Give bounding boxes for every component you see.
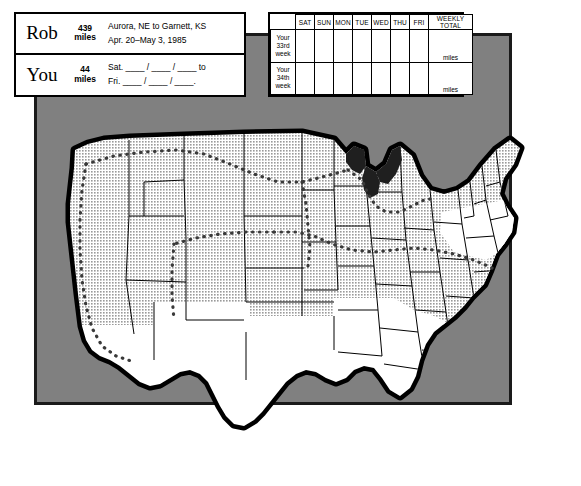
route-endpoints: Aurora, NE to Garnett, KS bbox=[108, 19, 244, 33]
col-header-thu: THU bbox=[391, 15, 410, 30]
cell-w34-total[interactable]: miles bbox=[429, 62, 473, 95]
cell-w33-fri[interactable] bbox=[410, 30, 429, 63]
cell-w34-tue[interactable] bbox=[353, 62, 372, 95]
row-label-line-2: 33rd bbox=[271, 42, 295, 50]
cell-w33-sat[interactable] bbox=[296, 30, 315, 63]
cell-w34-sat[interactable] bbox=[296, 62, 315, 95]
total-unit-w34: miles bbox=[429, 86, 472, 93]
cell-w34-wed[interactable] bbox=[372, 62, 391, 95]
total-unit-w33: miles bbox=[429, 54, 472, 61]
table-row: Your 34th week miles bbox=[271, 62, 473, 95]
info-row-rob: Rob 439 miles Aurora, NE to Garnett, KS … bbox=[16, 14, 244, 55]
shaded-states bbox=[64, 130, 524, 450]
distance-unit-rob: miles bbox=[74, 33, 96, 42]
route-detail-rob: Aurora, NE to Garnett, KS Apr. 20–May 3,… bbox=[104, 14, 244, 53]
col-header-fri: FRI bbox=[410, 15, 429, 30]
table-header-row: SAT SUN MON TUE WED THU FRI WEEKLY TOTAL bbox=[271, 15, 473, 30]
date-entry-you[interactable]: Sat. ____ / ____ / ____ to Fri. ____ / _… bbox=[104, 55, 244, 96]
col-header-weekly-total: WEEKLY TOTAL bbox=[429, 15, 473, 30]
row-label-line-1: Your bbox=[271, 66, 295, 74]
row-label-line-3: week bbox=[271, 82, 295, 90]
distance-unit-you: miles bbox=[74, 75, 96, 84]
corner-cell bbox=[271, 15, 296, 30]
row-label-line-1: Your bbox=[271, 34, 295, 42]
cell-w33-thu[interactable] bbox=[391, 30, 410, 63]
cell-w34-fri[interactable] bbox=[410, 62, 429, 95]
table-row: Your 33rd week miles bbox=[271, 30, 473, 63]
weekly-log-table[interactable]: SAT SUN MON TUE WED THU FRI WEEKLY TOTAL… bbox=[268, 12, 464, 97]
cell-w34-sun[interactable] bbox=[315, 62, 334, 95]
rider-distance-you: 44 miles bbox=[66, 55, 104, 96]
row-label-week-33: Your 33rd week bbox=[271, 30, 296, 63]
info-row-you[interactable]: You 44 miles Sat. ____ / ____ / ____ to … bbox=[16, 55, 244, 96]
start-date-blank-line[interactable]: Sat. ____ / ____ / ____ to bbox=[108, 61, 244, 75]
route-dates: Apr. 20–May 3, 1985 bbox=[108, 33, 244, 47]
cell-w33-sun[interactable] bbox=[315, 30, 334, 63]
rider-name-rob: Rob bbox=[16, 14, 66, 53]
col-header-sat: SAT bbox=[296, 15, 315, 30]
cell-w33-total[interactable]: miles bbox=[429, 30, 473, 63]
cell-w34-mon[interactable] bbox=[334, 62, 353, 95]
cell-w34-thu[interactable] bbox=[391, 62, 410, 95]
col-header-mon: MON bbox=[334, 15, 353, 30]
rider-info-box: Rob 439 miles Aurora, NE to Garnett, KS … bbox=[14, 12, 246, 97]
log-grid: SAT SUN MON TUE WED THU FRI WEEKLY TOTAL… bbox=[270, 14, 473, 95]
cell-w33-tue[interactable] bbox=[353, 30, 372, 63]
cell-w33-mon[interactable] bbox=[334, 30, 353, 63]
col-header-wed: WED bbox=[372, 15, 391, 30]
end-date-blank-line[interactable]: Fri. ____ / ____ / ____. bbox=[108, 75, 244, 89]
row-label-line-3: week bbox=[271, 50, 295, 58]
row-label-week-34: Your 34th week bbox=[271, 62, 296, 95]
col-header-tue: TUE bbox=[353, 15, 372, 30]
col-header-sun: SUN bbox=[315, 15, 334, 30]
cell-w33-wed[interactable] bbox=[372, 30, 391, 63]
rider-distance-rob: 439 miles bbox=[66, 14, 104, 53]
row-label-line-2: 34th bbox=[271, 74, 295, 82]
rider-name-you: You bbox=[16, 55, 66, 96]
us-map bbox=[34, 120, 547, 450]
